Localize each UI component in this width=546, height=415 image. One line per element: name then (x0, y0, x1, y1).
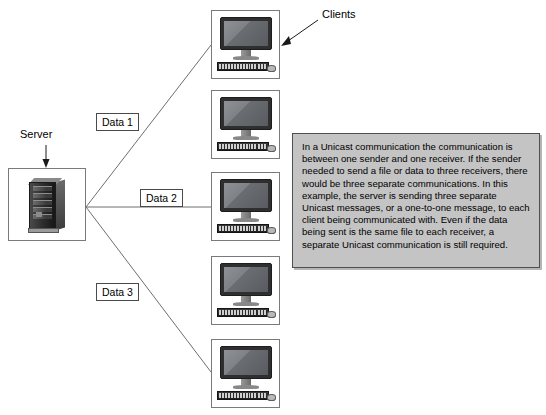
server-node[interactable] (8, 168, 86, 241)
desktop-computer-icon (217, 97, 275, 153)
server-callout-arrowhead (43, 159, 50, 168)
client-node-1[interactable] (211, 10, 280, 79)
clients-callout-label: Clients (322, 8, 356, 20)
server-label: Server (20, 128, 52, 140)
description-text-box: In a Unicast communication the communica… (292, 133, 540, 268)
data-label-2[interactable]: Data 2 (140, 189, 183, 207)
client-node-4[interactable] (211, 256, 280, 325)
clients-callout-arrowhead (281, 36, 291, 46)
diagram-canvas: Server Clients (0, 0, 546, 415)
description-text: In a Unicast communication the communica… (302, 141, 530, 251)
desktop-computer-icon (217, 263, 275, 319)
client-node-2[interactable] (211, 90, 280, 159)
data-label-3[interactable]: Data 3 (96, 283, 139, 301)
desktop-computer-icon (217, 346, 275, 402)
client-node-5[interactable] (211, 339, 280, 408)
server-tower-icon (27, 178, 67, 232)
client-node-3[interactable] (211, 172, 280, 241)
desktop-computer-icon (217, 179, 275, 235)
clients-callout-line (288, 20, 318, 41)
data-label-1[interactable]: Data 1 (96, 113, 139, 131)
desktop-computer-icon (217, 17, 275, 73)
